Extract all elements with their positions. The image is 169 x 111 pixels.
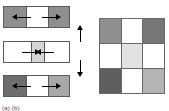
cell-r3c1 xyxy=(100,69,121,93)
panel-bottom-left-outward-arrow xyxy=(17,86,31,87)
domain-pattern-grid xyxy=(99,18,165,94)
cell-r2c1 xyxy=(100,44,121,68)
cell-r1c3 xyxy=(143,19,164,43)
figure-canvas: (a) (b) xyxy=(0,0,169,111)
cell-r3c2 xyxy=(122,69,143,93)
panel-top-right-outward-arrow xyxy=(42,17,56,18)
cell-r1c2 xyxy=(122,19,143,43)
upward-transition-arrow xyxy=(80,30,81,42)
figure-caption: (a) (b) xyxy=(2,105,20,111)
panel-middle-right-inward-arrow xyxy=(41,52,54,53)
cell-r2c3 xyxy=(143,44,164,68)
downward-transition-arrow xyxy=(80,60,81,72)
cell-r2c2 xyxy=(122,44,143,68)
cell-r1c1 xyxy=(100,19,121,43)
panel-top-left-outward-arrow xyxy=(17,17,31,18)
panel-bottom-right-outward-arrow xyxy=(42,86,56,87)
panel-middle-left-inward-arrow xyxy=(22,52,35,53)
cell-r3c3 xyxy=(143,69,164,93)
